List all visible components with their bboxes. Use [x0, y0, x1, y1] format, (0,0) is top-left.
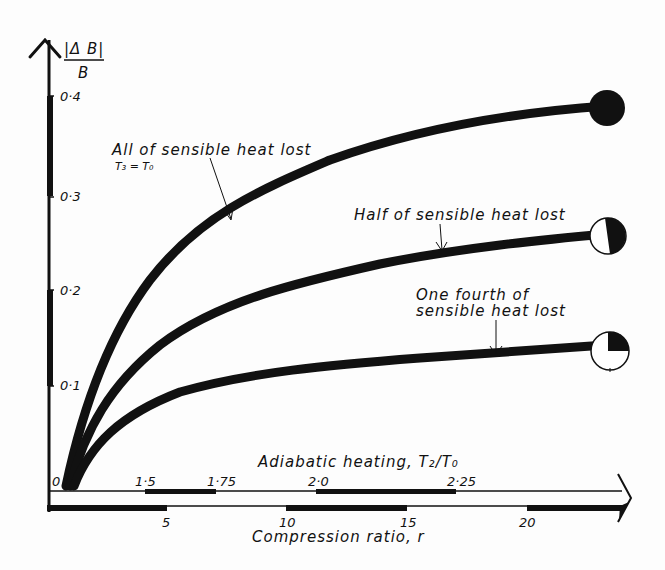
origin-label: 0 — [52, 474, 60, 489]
upper-tick-1-75: 1·75 — [207, 474, 236, 489]
half-circle-marker — [590, 218, 626, 254]
label-all-heat-lost: All of sensible heat lost — [111, 141, 312, 159]
upper-tick-2-25: 2·25 — [447, 474, 476, 489]
y-tick-0-4: 0·4 — [60, 89, 81, 104]
upper-tick-2-0: 2·0 — [308, 474, 329, 489]
upper-axis-label: Adiabatic heating, T₂/T₀ — [257, 453, 459, 471]
quarter-circle-marker — [591, 332, 629, 372]
label-t3-eq-t0: T₃ = T₀ — [115, 160, 154, 173]
y-tick-0-3: 0·3 — [60, 189, 81, 204]
lower-axis-label: Compression ratio, r — [252, 528, 425, 546]
y-axis — [30, 40, 60, 512]
annotation-quarter: One fourth of sensible heat lost — [416, 286, 566, 355]
upper-tick-1-5: 1·5 — [135, 474, 156, 489]
end-markers — [589, 90, 629, 372]
full-circle-marker — [589, 90, 625, 126]
chart-canvas: |Δ B| B 0·4 0·3 0·2 0·1 0 1·5 1·75 2·0 2… — [0, 0, 665, 570]
upper-x-tick-labels: 1·5 1·75 2·0 2·25 — [135, 474, 476, 489]
label-half-heat-lost: Half of sensible heat lost — [354, 206, 566, 224]
lower-tick-20: 20 — [519, 515, 536, 530]
label-quarter-line2: sensible heat lost — [416, 302, 566, 320]
y-label-denominator: B — [78, 64, 89, 82]
curve-half-heat-lost — [70, 234, 606, 486]
lower-tick-5: 5 — [162, 515, 170, 530]
y-axis-label: |Δ B| B — [64, 40, 104, 82]
y-tick-0-2: 0·2 — [60, 283, 81, 298]
y-tick-0-1: 0·1 — [60, 378, 81, 393]
chart-svg: |Δ B| B 0·4 0·3 0·2 0·1 0 1·5 1·75 2·0 2… — [0, 0, 665, 570]
y-label-numerator: |Δ B| — [64, 40, 104, 58]
